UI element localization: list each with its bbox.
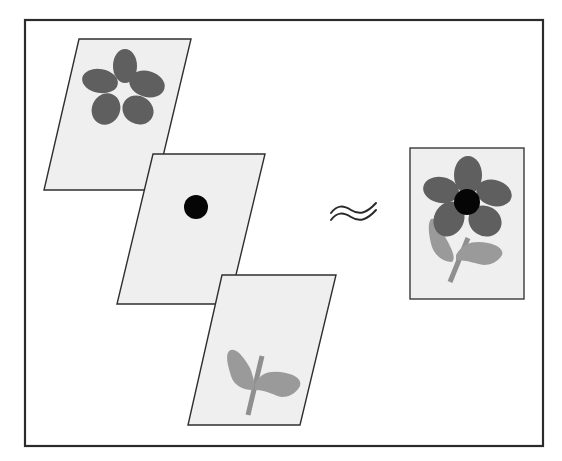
center-dot-icon (184, 195, 208, 219)
diagram-canvas: Three layered image planes (petals, cent… (0, 0, 562, 461)
result-flower-card (410, 148, 524, 299)
